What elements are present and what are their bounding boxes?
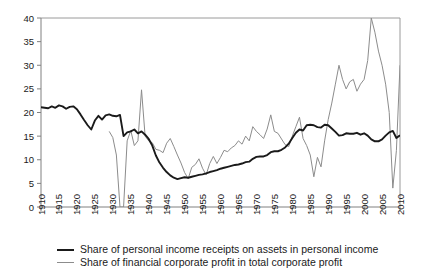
x-tick-label: 1995 [341,194,352,215]
y-axis-ticks: 0510152025303540 [23,13,41,213]
y-tick-label: 25 [23,83,34,94]
y-tick-label: 20 [23,107,34,118]
series-line [109,18,400,207]
x-tick-label: 1990 [323,194,334,215]
x-tick-label: 1915 [53,194,64,215]
x-tick-label: 2010 [395,194,406,215]
y-tick-label: 0 [29,202,34,213]
legend-swatch-line-icon [57,262,74,263]
legend-label-personal-income: Share of personal income receipts on ass… [80,243,378,256]
x-tick-label: 1950 [179,194,190,215]
x-tick-label: 2005 [377,194,388,215]
x-tick-label: 1940 [143,194,154,215]
y-tick-label: 15 [23,131,34,142]
data-series-layer [41,18,400,207]
y-tick-label: 40 [23,13,34,24]
x-tick-label: 1980 [287,194,298,215]
legend-item-financial-profit: Share of financial corporate profit in t… [57,256,432,269]
y-tick-label: 5 [29,178,34,189]
x-tick-label: 1960 [215,194,226,215]
legend-item-personal-income: Share of personal income receipts on ass… [57,243,432,256]
x-tick-label: 1965 [233,194,244,215]
y-tick-label: 30 [23,60,34,71]
legend-swatch-line-icon [57,249,74,251]
x-tick-label: 1945 [161,194,172,215]
x-tick-label: 2000 [359,194,370,215]
x-tick-label: 1985 [305,194,316,215]
x-axis-ticks: 1910191519201925193019351940194519501955… [36,194,406,215]
x-tick-label: 1925 [89,194,100,215]
x-tick-label: 1970 [251,194,262,215]
series-line [41,105,400,179]
x-tick-label: 1920 [71,194,82,215]
x-tick-label: 1975 [269,194,280,215]
chart-figure: 0510152025303540 19101915192019251930193… [0,0,432,271]
line-chart-plot: 0510152025303540 19101915192019251930193… [0,0,432,271]
x-tick-label: 1935 [125,194,136,215]
legend-label-financial-profit: Share of financial corporate profit in t… [80,256,342,269]
x-tick-label: 1930 [107,194,118,215]
y-tick-label: 35 [23,36,34,47]
x-tick-label: 1955 [197,194,208,215]
x-tick-label: 1910 [36,194,47,215]
y-tick-label: 10 [23,154,34,165]
plot-frame [41,18,400,207]
chart-legend: Share of personal income receipts on ass… [57,243,432,269]
